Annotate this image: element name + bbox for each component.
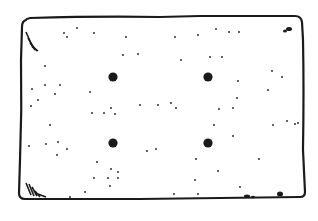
speck-dot [173, 193, 175, 195]
speck-dot [63, 32, 65, 34]
speck-dot [228, 31, 230, 33]
speck-dot [155, 148, 157, 150]
hole-dot [108, 72, 117, 81]
speck-dot [146, 150, 148, 152]
speck-dot [66, 36, 68, 38]
speck-dot [218, 108, 220, 110]
speck-dot [174, 36, 176, 38]
speck-dot [139, 104, 141, 106]
speck-dot [125, 36, 127, 38]
speck-dot [122, 54, 124, 56]
speck-dot [180, 59, 182, 61]
speck-dot [31, 88, 33, 90]
speck-dot [93, 177, 95, 179]
speck-dot [239, 186, 241, 188]
speck-dot [76, 27, 78, 29]
speck-dot [69, 196, 71, 198]
speck-dot [137, 53, 139, 55]
hole-dot [203, 72, 212, 81]
speck-dot [197, 34, 199, 36]
speck-dot [281, 76, 283, 78]
speck-dot [271, 70, 273, 72]
speck-dot [110, 168, 112, 170]
speck-dot [45, 143, 47, 145]
speck-dot [175, 107, 177, 109]
speck-dot [54, 93, 56, 95]
speck-dot [267, 89, 269, 91]
speck-dot [209, 56, 211, 58]
speck-dot [232, 107, 234, 109]
speck-dot [109, 185, 111, 187]
cracker-outline [19, 16, 305, 199]
speck-dot [114, 113, 116, 115]
speck-dot [56, 154, 58, 156]
speck-dot [272, 124, 274, 126]
speck-dot [286, 120, 288, 122]
speck-dot [93, 32, 95, 34]
speck-dot [237, 80, 239, 82]
speck-dot [96, 161, 98, 163]
speck-dot [215, 28, 217, 30]
speck-dot [297, 122, 299, 124]
speck-dot [117, 171, 119, 173]
speck-dot [213, 124, 215, 126]
speck-dot [236, 97, 238, 99]
speck-dot [157, 104, 159, 106]
speck-dot [117, 177, 119, 179]
speck-dot [66, 148, 68, 150]
speck-dot [59, 84, 61, 86]
speck-dot [221, 56, 223, 58]
speck-dot [49, 124, 51, 126]
speck-dot [232, 135, 234, 137]
speck-dot [37, 99, 39, 101]
hole-dot [108, 138, 117, 147]
speck-dot [197, 193, 199, 195]
speck-dot [294, 123, 296, 125]
speck-dot [57, 141, 59, 143]
speck-dot [107, 177, 109, 179]
speck-dot [170, 102, 172, 104]
speck-dot [89, 91, 91, 93]
speck-dot [103, 112, 105, 114]
hole-dot [203, 138, 212, 147]
speck-dot [217, 170, 219, 172]
speck-dot [84, 191, 86, 193]
speck-dot [195, 158, 197, 160]
speck-dot [110, 107, 112, 109]
speck-dot [44, 84, 46, 86]
speck-dot [30, 105, 32, 107]
speck-dot [194, 179, 196, 181]
speck-dot [238, 31, 240, 33]
speck-dot [44, 65, 46, 67]
speck-dot [258, 158, 260, 160]
speck-dot [91, 112, 93, 114]
speck-dot [28, 145, 30, 147]
cracker-illustration [0, 0, 318, 221]
